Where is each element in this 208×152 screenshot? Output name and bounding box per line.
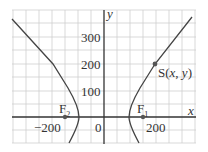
point-s: [153, 62, 158, 67]
tick-300: 300: [81, 31, 101, 44]
tick-200: 200: [146, 121, 166, 134]
tick-neg200: −200: [34, 121, 61, 134]
point-s-label: S(x, y): [158, 66, 192, 79]
f1-subscript: 1: [144, 110, 148, 119]
tick-y200: 200: [81, 58, 101, 71]
tick-0: 0: [95, 121, 102, 134]
f2-subscript: 2: [66, 110, 70, 119]
x-axis-label: x: [188, 104, 194, 117]
s-suffix: ): [188, 65, 192, 80]
tick-100: 100: [81, 85, 101, 98]
s-prefix: S(: [158, 65, 170, 80]
y-axis-label: y: [107, 7, 113, 20]
focus-f2-label: F2: [59, 102, 70, 119]
focus-f1-label: F1: [137, 102, 148, 119]
